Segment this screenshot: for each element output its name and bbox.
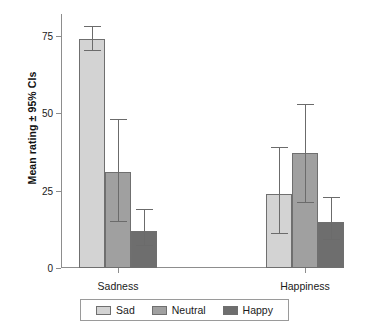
y-axis-tick-mark	[56, 113, 61, 114]
x-axis-group-label-sadness: Sadness	[98, 280, 139, 292]
y-axis-line	[61, 14, 62, 268]
legend-item-happy[interactable]: Happy	[223, 304, 273, 316]
error-bar-stem	[331, 197, 332, 240]
error-bar-cap-lower	[136, 245, 153, 246]
x-axis-tick-mark	[118, 268, 119, 273]
legend-item-sad[interactable]: Sad	[96, 304, 135, 316]
error-bar-stem	[144, 209, 145, 246]
x-axis-group-label-happiness: Happiness	[280, 280, 330, 292]
error-bar-happy-happiness	[318, 197, 344, 240]
error-bar-cap-upper	[271, 147, 288, 148]
error-bar-cap-upper	[136, 209, 153, 210]
bar-sad-sadness	[79, 39, 105, 268]
error-bar-cap-lower	[84, 50, 101, 51]
y-axis-tick-mark	[56, 268, 61, 269]
error-bar-cap-upper	[323, 197, 340, 198]
y-axis-tick-label: 0	[47, 263, 53, 274]
error-bar-sad-sadness	[79, 26, 105, 51]
bar-chart: Mean rating ± 95% CIs 0255075 SadnessHap…	[0, 0, 369, 327]
error-bar-cap-upper	[297, 104, 314, 105]
y-axis-tick-label: 25	[42, 185, 53, 196]
error-bar-stem	[92, 26, 93, 51]
chart-legend: SadNeutralHappy	[80, 299, 289, 321]
error-bar-cap-lower	[297, 202, 314, 203]
legend-swatch-neutral	[152, 306, 167, 315]
y-axis-title: Mean rating ± 95% CIs	[26, 33, 38, 223]
legend-item-neutral[interactable]: Neutral	[152, 304, 206, 316]
error-bar-cap-lower	[323, 239, 340, 240]
error-bar-stem	[118, 119, 119, 221]
error-bar-cap-upper	[110, 119, 127, 120]
error-bar-cap-lower	[110, 221, 127, 222]
legend-swatch-happy	[223, 306, 238, 315]
y-axis-tick-label: 50	[42, 108, 53, 119]
error-bar-neutral-sadness	[105, 119, 131, 221]
y-axis-tick-mark	[56, 191, 61, 192]
error-bar-neutral-happiness	[292, 104, 318, 203]
error-bar-happy-sadness	[131, 209, 157, 246]
legend-swatch-sad	[96, 306, 111, 315]
error-bar-stem	[305, 104, 306, 203]
x-axis-tick-mark	[305, 268, 306, 273]
plot-area: 0255075 SadnessHappiness	[61, 14, 333, 268]
error-bar-cap-upper	[84, 26, 101, 27]
error-bar-sad-happiness	[266, 147, 292, 234]
legend-label-sad: Sad	[116, 304, 135, 316]
y-axis-tick-mark	[56, 36, 61, 37]
error-bar-stem	[279, 147, 280, 234]
legend-label-neutral: Neutral	[172, 304, 206, 316]
error-bar-cap-lower	[271, 233, 288, 234]
legend-label-happy: Happy	[243, 304, 273, 316]
y-axis-tick-label: 75	[42, 30, 53, 41]
